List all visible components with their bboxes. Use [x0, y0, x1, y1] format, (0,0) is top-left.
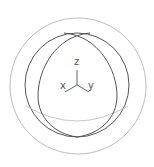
y-axis-label: y	[88, 80, 94, 91]
x-axis-line	[65, 85, 77, 92]
x-axis-label: x	[60, 80, 66, 91]
z-axis-label: z	[74, 56, 79, 67]
rotation-gizmo[interactable]: z x y	[0, 0, 154, 167]
axis-triad: z x y	[60, 56, 94, 92]
